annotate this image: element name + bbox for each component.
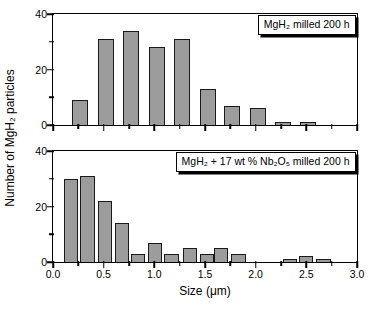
plot-area-top: MgH₂ milled 200 h 02040: [52, 13, 358, 126]
bar: [131, 254, 145, 262]
y-minor-tick: [49, 41, 54, 43]
x-minor-tick: [179, 124, 181, 129]
bar: [214, 248, 228, 262]
x-minor-tick: [230, 124, 232, 129]
bar: [72, 100, 88, 125]
y-major-tick: [47, 69, 54, 71]
y-major-tick: [47, 206, 54, 208]
y-major-tick: [47, 13, 54, 15]
bar: [148, 243, 162, 262]
bar: [231, 254, 245, 262]
legend-box-top: MgH₂ milled 200 h: [258, 15, 356, 35]
y-axis-label: Number of MgH₂ particles: [3, 69, 17, 206]
y-tick-label: 20: [35, 201, 47, 212]
bar: [174, 39, 190, 125]
bar: [98, 201, 112, 262]
y-minor-tick: [49, 97, 54, 99]
y-minor-tick: [49, 234, 54, 236]
bar: [300, 122, 316, 125]
x-major-tick: [255, 124, 257, 131]
bar: [80, 176, 94, 262]
bar: [224, 106, 240, 125]
y-major-tick: [47, 124, 54, 126]
x-minor-tick: [280, 261, 282, 266]
bar: [283, 259, 297, 262]
bar: [200, 254, 214, 262]
x-axis-label: Size (μm): [52, 284, 358, 298]
bar: [115, 223, 129, 262]
bar: [250, 108, 266, 125]
bar: [316, 259, 330, 262]
x-major-tick: [154, 261, 156, 268]
y-tick-label: 0: [41, 257, 47, 268]
bar: [164, 254, 178, 262]
y-tick-label: 40: [35, 146, 47, 157]
x-major-tick: [356, 124, 358, 131]
x-major-tick: [204, 124, 206, 131]
bar: [149, 47, 165, 125]
x-minor-tick: [179, 261, 181, 266]
bar: [183, 248, 197, 262]
legend-text-bottom: MgH₂ + 17 wt % Nb₂O₅ milled 200 h: [182, 155, 350, 167]
bar: [200, 89, 216, 125]
x-major-tick: [103, 124, 105, 131]
x-minor-tick: [78, 261, 80, 266]
x-minor-tick: [128, 124, 130, 129]
x-minor-tick: [280, 124, 282, 129]
x-major-tick: [356, 261, 358, 268]
y-tick-label: 0: [41, 120, 47, 131]
x-tick-label: 1.5: [198, 269, 213, 280]
x-tick-label: 0.0: [46, 269, 61, 280]
figure-histogram-panels: Number of MgH₂ particles MgH₂ milled 200…: [0, 0, 377, 314]
legend-box-bottom: MgH₂ + 17 wt % Nb₂O₅ milled 200 h: [176, 152, 356, 172]
x-minor-tick: [331, 261, 333, 266]
x-major-tick: [255, 261, 257, 268]
legend-text-top: MgH₂ milled 200 h: [264, 18, 350, 30]
bar: [275, 122, 291, 125]
x-minor-tick: [128, 261, 130, 266]
x-tick-label: 2.0: [248, 269, 263, 280]
y-major-tick: [47, 261, 54, 263]
x-tick-label: 2.5: [299, 269, 314, 280]
y-tick-label: 40: [35, 9, 47, 20]
x-major-tick: [306, 124, 308, 131]
plot-area-bottom: MgH₂ + 17 wt % Nb₂O₅ milled 200 h 0.00.5…: [52, 150, 358, 263]
x-major-tick: [204, 261, 206, 268]
x-tick-label: 3.0: [350, 269, 365, 280]
x-tick-label: 1.0: [147, 269, 162, 280]
y-major-tick: [47, 150, 54, 152]
x-minor-tick: [230, 261, 232, 266]
x-tick-label: 0.5: [96, 269, 111, 280]
x-minor-tick: [78, 124, 80, 129]
y-minor-tick: [49, 178, 54, 180]
x-minor-tick: [331, 124, 333, 129]
x-major-tick: [103, 261, 105, 268]
x-major-tick: [306, 261, 308, 268]
bar: [98, 39, 114, 125]
bar: [123, 31, 139, 125]
bar: [64, 179, 78, 262]
x-major-tick: [154, 124, 156, 131]
y-tick-label: 20: [35, 64, 47, 75]
